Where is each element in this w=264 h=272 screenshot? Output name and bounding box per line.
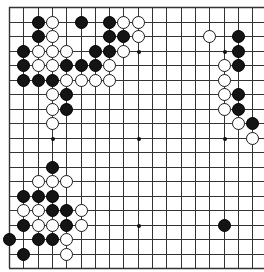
black-stone[interactable] <box>218 219 231 232</box>
white-stone[interactable] <box>132 30 145 43</box>
white-stone[interactable] <box>46 103 59 116</box>
black-stone[interactable] <box>17 219 30 232</box>
white-stone[interactable] <box>75 219 88 232</box>
white-stone[interactable] <box>103 74 116 87</box>
black-stone[interactable] <box>46 190 59 203</box>
white-stone[interactable] <box>117 16 130 29</box>
black-stone[interactable] <box>246 117 259 130</box>
white-stone[interactable] <box>132 16 145 29</box>
black-stone[interactable] <box>232 103 245 116</box>
white-stone[interactable] <box>117 45 130 58</box>
black-stone[interactable] <box>232 59 245 72</box>
black-stone[interactable] <box>17 45 30 58</box>
white-stone[interactable] <box>46 30 59 43</box>
black-stone[interactable] <box>32 190 45 203</box>
white-stone[interactable] <box>60 248 73 261</box>
white-stone[interactable] <box>60 45 73 58</box>
black-stone[interactable] <box>75 16 88 29</box>
white-stone[interactable] <box>46 219 59 232</box>
black-stone[interactable] <box>60 219 73 232</box>
white-stone[interactable] <box>32 45 45 58</box>
white-stone[interactable] <box>32 219 45 232</box>
black-stone[interactable] <box>17 190 30 203</box>
white-stone[interactable] <box>103 59 116 72</box>
white-stone[interactable] <box>232 117 245 130</box>
star-point-icon <box>137 224 141 228</box>
black-stone[interactable] <box>32 16 45 29</box>
star-point-icon <box>51 137 55 141</box>
white-stone[interactable] <box>218 74 231 87</box>
white-stone[interactable] <box>32 59 45 72</box>
white-stone[interactable] <box>218 59 231 72</box>
black-stone[interactable] <box>232 88 245 101</box>
white-stone[interactable] <box>75 74 88 87</box>
black-stone[interactable] <box>32 74 45 87</box>
black-stone[interactable] <box>103 45 116 58</box>
black-stone[interactable] <box>17 74 30 87</box>
star-point-icon <box>223 137 227 141</box>
white-stone[interactable] <box>218 103 231 116</box>
white-stone[interactable] <box>46 16 59 29</box>
black-stone[interactable] <box>103 30 116 43</box>
black-stone[interactable] <box>89 45 102 58</box>
star-point-icon <box>137 137 141 141</box>
black-stone[interactable] <box>46 204 59 217</box>
black-stone[interactable] <box>46 233 59 246</box>
white-stone[interactable] <box>46 59 59 72</box>
white-stone[interactable] <box>246 132 259 145</box>
black-stone[interactable] <box>46 161 59 174</box>
star-point-icon <box>223 50 227 54</box>
black-stone[interactable] <box>89 59 102 72</box>
black-stone[interactable] <box>32 233 45 246</box>
black-stone[interactable] <box>232 30 245 43</box>
black-stone[interactable] <box>103 16 116 29</box>
black-stone[interactable] <box>3 233 16 246</box>
white-stone[interactable] <box>60 74 73 87</box>
black-stone[interactable] <box>46 74 59 87</box>
white-stone[interactable] <box>46 117 59 130</box>
black-stone[interactable] <box>32 30 45 43</box>
white-stone[interactable] <box>46 88 59 101</box>
white-stone[interactable] <box>46 45 59 58</box>
white-stone[interactable] <box>75 204 88 217</box>
black-stone[interactable] <box>232 45 245 58</box>
black-stone[interactable] <box>60 103 73 116</box>
go-board[interactable] <box>0 0 264 272</box>
white-stone[interactable] <box>218 88 231 101</box>
black-stone[interactable] <box>75 59 88 72</box>
white-stone[interactable] <box>89 74 102 87</box>
white-stone[interactable] <box>32 204 45 217</box>
white-stone[interactable] <box>46 175 59 188</box>
black-stone[interactable] <box>17 248 30 261</box>
star-point-icon <box>137 50 141 54</box>
white-stone[interactable] <box>32 175 45 188</box>
